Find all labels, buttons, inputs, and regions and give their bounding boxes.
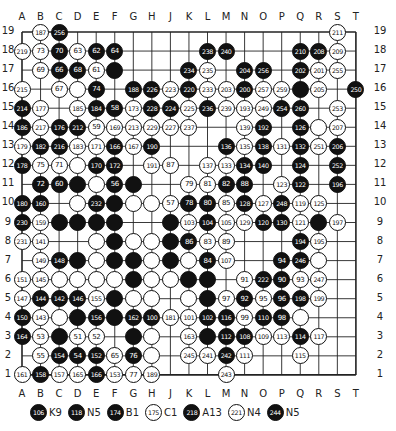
- black-stone-N17: 204: [236, 62, 253, 79]
- legend-location-218: A13: [202, 407, 222, 418]
- black-stone-Q14: 126: [292, 119, 309, 136]
- legend-stone-244: 244: [267, 404, 284, 421]
- bottom-col-label-Q: Q: [293, 388, 307, 399]
- right-row-label-11: 11: [372, 177, 388, 188]
- white-stone-Q4: [292, 309, 309, 326]
- black-stone-G16: 188: [125, 81, 142, 98]
- black-stone-F12: 172: [106, 157, 123, 174]
- black-stone-Q5: 198: [292, 290, 309, 307]
- black-stone-S13: 206: [329, 138, 346, 155]
- top-col-label-F: F: [108, 11, 122, 22]
- white-stone-M10: 85: [218, 195, 235, 212]
- bottom-col-label-F: F: [108, 388, 122, 399]
- white-stone-D13: 183: [69, 138, 86, 155]
- bottom-col-label-N: N: [238, 388, 252, 399]
- white-stone-M7: 107: [218, 252, 235, 269]
- bottom-col-label-C: C: [52, 388, 66, 399]
- top-col-label-N: N: [238, 11, 252, 22]
- black-stone-K17: 234: [180, 62, 197, 79]
- right-row-label-14: 14: [372, 120, 388, 131]
- white-stone-E17: 61: [88, 62, 105, 79]
- white-stone-M1: 243: [218, 366, 235, 383]
- bottom-col-label-E: E: [89, 388, 103, 399]
- legend-location-106: K9: [49, 407, 62, 418]
- black-stone-Q7: 246: [292, 252, 309, 269]
- black-stone-L9: 104: [199, 214, 216, 231]
- white-stone-L11: 81: [199, 176, 216, 193]
- white-stone-B17: 69: [32, 62, 49, 79]
- black-stone-K16: 220: [180, 81, 197, 98]
- black-stone-Q16: [292, 81, 309, 98]
- right-row-label-10: 10: [372, 196, 388, 207]
- black-stone-E18: 62: [88, 43, 105, 60]
- white-stone-A1: 161: [14, 366, 31, 383]
- black-stone-A12: 178: [14, 157, 31, 174]
- top-col-label-E: E: [89, 11, 103, 22]
- right-row-label-6: 6: [372, 273, 388, 284]
- right-row-label-18: 18: [372, 44, 388, 55]
- white-stone-D16: [69, 81, 86, 98]
- white-stone-M16: 203: [218, 81, 235, 98]
- white-stone-B12: 75: [32, 157, 49, 174]
- black-stone-O4: 110: [255, 309, 272, 326]
- white-stone-F14: 169: [106, 119, 123, 136]
- white-stone-E13: 171: [88, 138, 105, 155]
- black-stone-N12: 134: [236, 157, 253, 174]
- white-stone-B8: 141: [32, 233, 49, 250]
- legend-location-174: B1: [126, 407, 139, 418]
- black-stone-N16: 200: [236, 81, 253, 98]
- black-stone-P15: 254: [273, 100, 290, 117]
- black-stone-E15: 184: [88, 100, 105, 117]
- white-stone-E7: [88, 252, 105, 269]
- top-col-label-B: B: [34, 11, 48, 22]
- white-stone-O5: 95: [255, 290, 272, 307]
- white-stone-O10: 127: [255, 195, 272, 212]
- black-stone-M13: 136: [218, 138, 235, 155]
- white-stone-R16: 205: [310, 81, 327, 98]
- black-stone-J15: 224: [162, 100, 179, 117]
- white-stone-S18: 209: [329, 43, 346, 60]
- white-stone-B9: 159: [32, 214, 49, 231]
- top-col-label-R: R: [312, 11, 326, 22]
- legend-stone-221: 221: [228, 404, 245, 421]
- legend-stone-174: 174: [107, 404, 124, 421]
- black-stone-C3: [51, 328, 68, 345]
- black-stone-F18: 64: [106, 43, 123, 60]
- black-stone-E12: 170: [88, 157, 105, 174]
- white-stone-C12: 71: [51, 157, 68, 174]
- top-col-label-C: C: [52, 11, 66, 22]
- black-stone-O14: 192: [255, 119, 272, 136]
- legend-stone-118: 118: [68, 404, 85, 421]
- legend-stone-106: 106: [30, 404, 47, 421]
- black-stone-L15: 236: [199, 100, 216, 117]
- right-row-label-16: 16: [372, 82, 388, 93]
- black-stone-L18: 238: [199, 43, 216, 60]
- white-stone-D15: 185: [69, 100, 86, 117]
- white-stone-A6: 151: [14, 271, 31, 288]
- legend-location-221: N4: [247, 407, 261, 418]
- bottom-col-label-P: P: [275, 388, 289, 399]
- black-stone-P10: 248: [273, 195, 290, 212]
- black-stone-D11: [69, 176, 86, 193]
- black-stone-C13: 216: [51, 138, 68, 155]
- white-stone-E8: [88, 233, 105, 250]
- white-stone-L12: 137: [199, 157, 216, 174]
- white-stone-O3: 109: [255, 328, 272, 345]
- right-row-label-4: 4: [372, 311, 388, 322]
- black-stone-J8: [162, 233, 179, 250]
- white-stone-S19: 211: [329, 24, 346, 41]
- black-stone-A3: 164: [14, 328, 31, 345]
- top-col-label-O: O: [256, 11, 270, 22]
- white-stone-S9: 197: [329, 214, 346, 231]
- bottom-col-label-O: O: [256, 388, 270, 399]
- right-row-label-8: 8: [372, 235, 388, 246]
- black-stone-M3: 112: [218, 328, 235, 345]
- right-row-label-5: 5: [372, 292, 388, 303]
- black-stone-G6: [125, 271, 142, 288]
- black-stone-A4: 150: [14, 309, 31, 326]
- right-row-label-9: 9: [372, 216, 388, 227]
- white-stone-S15: 253: [329, 100, 346, 117]
- top-col-label-H: H: [145, 11, 159, 22]
- black-stone-Q17: 202: [292, 62, 309, 79]
- black-stone-B11: 72: [32, 176, 49, 193]
